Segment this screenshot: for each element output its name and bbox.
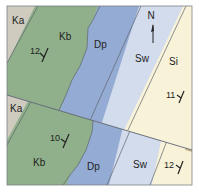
geologic-map: N Ka Kb Dp Sw Si Ka Kb Dp Sw 12 11 10 12 <box>0 0 199 193</box>
svg-text:12: 12 <box>30 46 40 56</box>
svg-text:12: 12 <box>164 160 174 170</box>
svg-text:11: 11 <box>166 90 175 100</box>
unit-label-Ka-lower: Ka <box>10 103 23 114</box>
unit-label-Dp-upper: Dp <box>94 39 107 50</box>
unit-label-Si-upper: Si <box>169 56 178 67</box>
unit-label-Ka-upper: Ka <box>12 15 25 26</box>
svg-text:10: 10 <box>50 133 60 143</box>
unit-label-Sw-lower: Sw <box>133 159 148 170</box>
unit-label-Kb-lower: Kb <box>33 157 46 168</box>
unit-label-Kb-upper: Kb <box>59 31 72 42</box>
unit-label-Sw-upper: Sw <box>135 53 150 64</box>
unit-label-Dp-lower: Dp <box>87 161 100 172</box>
svg-text:N: N <box>147 10 154 21</box>
